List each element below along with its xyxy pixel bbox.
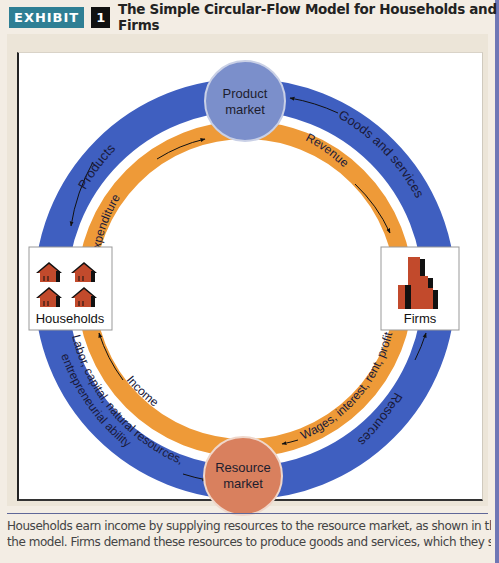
circular-flow-diagram: Products Goods and services Resources La… bbox=[0, 0, 499, 563]
resource-market-node: Resource market bbox=[204, 437, 282, 515]
product-market-line1: Product bbox=[223, 86, 268, 101]
product-market-node: Product market bbox=[205, 61, 285, 141]
figure-caption: Households earn income by supplying reso… bbox=[7, 518, 491, 563]
product-market-line2: market bbox=[225, 102, 265, 117]
caption-line-1: Households earn income by supplying reso… bbox=[7, 518, 491, 534]
households-label: Households bbox=[36, 311, 105, 326]
caption-divider bbox=[7, 513, 488, 514]
firms-label: Firms bbox=[404, 311, 437, 326]
caption-line-2: the model. Firms demand these resources … bbox=[7, 534, 491, 550]
resource-market-line1: Resource bbox=[215, 460, 271, 475]
goods-services-label: Goods and services bbox=[336, 107, 427, 201]
households-node: Households bbox=[29, 247, 112, 330]
resource-market-line2: market bbox=[223, 476, 263, 491]
firms-node: Firms bbox=[381, 247, 459, 330]
